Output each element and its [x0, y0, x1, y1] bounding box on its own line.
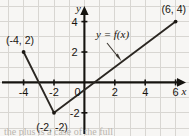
origin-label: 0 [74, 86, 80, 98]
data-point-left [22, 50, 26, 54]
function-equation-label: y = f(x) [95, 28, 129, 41]
x-tick-label-6: 6 [173, 86, 179, 98]
x-tick-label-2: 2 [112, 86, 118, 98]
graph-screenshot: -4 -2 2 4 6 0 4 2 -2 y x y = f(x) (-4, 2… [0, 0, 189, 136]
x-tick-label-neg4: -4 [19, 86, 29, 98]
point-label-neg4-2: (-4, 2) [6, 34, 34, 46]
cropped-caption-bleed: the plus is a case of the full [4, 126, 113, 136]
x-tick-label-neg2: -2 [49, 86, 59, 98]
x-axis-label: x [181, 85, 187, 97]
point-label-6-4: (6, 4) [161, 3, 186, 15]
y-axis-label: y [75, 2, 81, 14]
data-point-vertex [52, 111, 56, 115]
y-tick-label-neg2: -2 [70, 107, 80, 119]
x-tick-label-4: 4 [142, 86, 148, 98]
y-tick-label-4: 4 [71, 16, 77, 28]
coordinate-plane-figure: -4 -2 2 4 6 0 4 2 -2 y x y = f(x) (-4, 2… [0, 0, 189, 136]
data-point-right [174, 20, 178, 24]
y-tick-label-2: 2 [71, 46, 77, 58]
